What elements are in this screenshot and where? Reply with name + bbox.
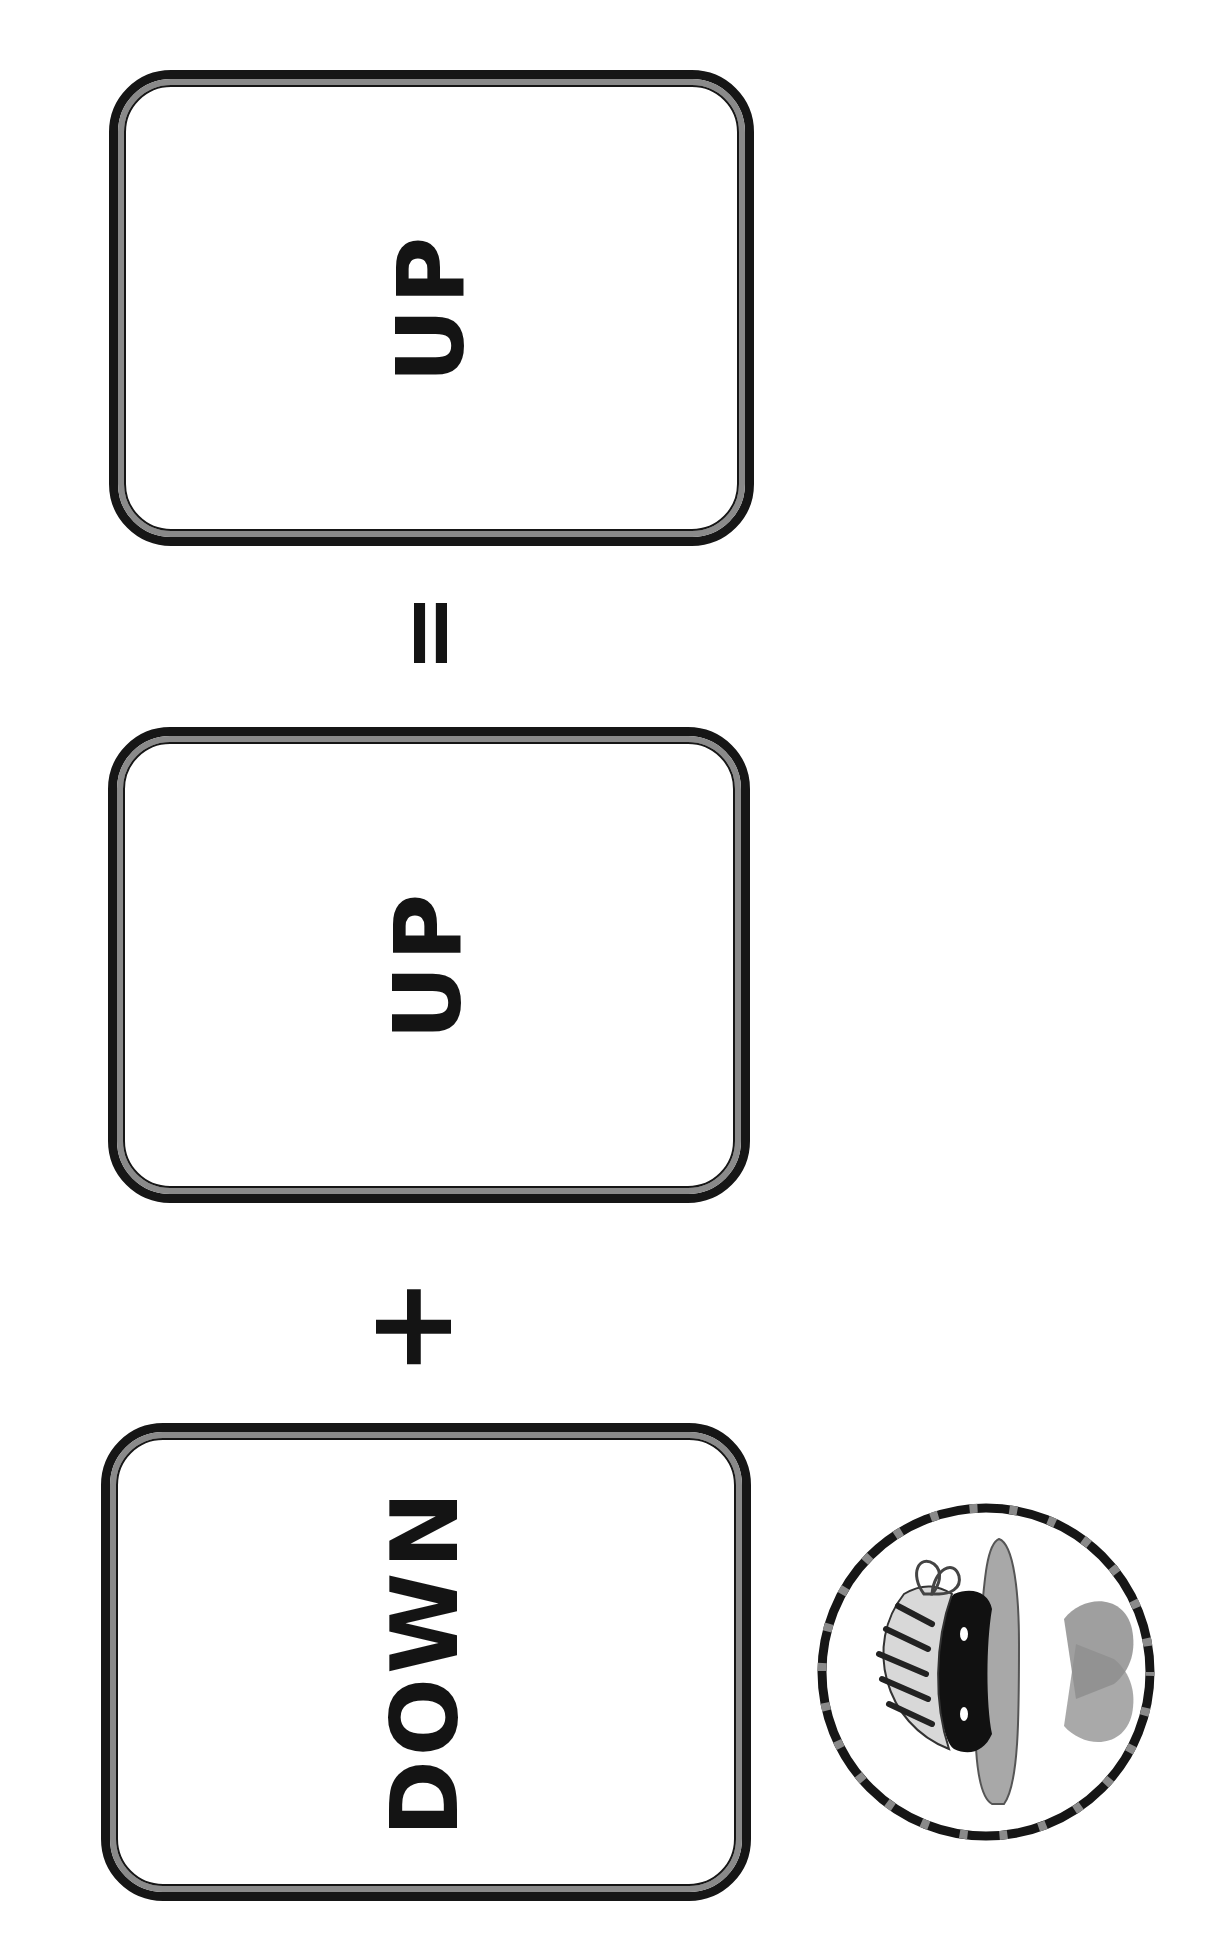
card-word: UP bbox=[386, 233, 478, 383]
equals-sign: = bbox=[380, 588, 476, 678]
word-card-result: UP bbox=[109, 70, 754, 546]
card-word: UP bbox=[383, 890, 475, 1040]
word-card-second: UP bbox=[108, 727, 750, 1203]
word-card-first: DOWN bbox=[101, 1423, 751, 1901]
character-illustration-icon bbox=[814, 1500, 1159, 1845]
character-badge bbox=[814, 1500, 1159, 1845]
card-word: DOWN bbox=[380, 1487, 472, 1836]
plus-sign: + bbox=[350, 1287, 470, 1377]
